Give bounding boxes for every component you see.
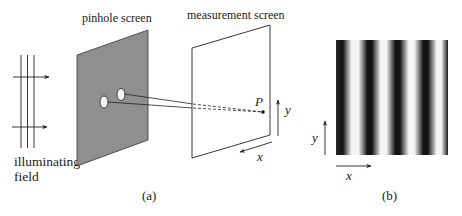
panel-a-caption: (a) [142, 188, 156, 203]
double-slit-diagram: illuminating field pinhole screen measur… [0, 0, 462, 216]
illuminating-field-wavefronts [21, 55, 34, 148]
interference-fringe-pattern [336, 40, 448, 155]
y-axis-label: y [283, 102, 291, 117]
x-axis-label: x [345, 168, 352, 183]
panel-b: y x (b) [310, 40, 448, 203]
point-p-label: P [254, 94, 263, 109]
pinhole-screen [77, 30, 148, 166]
panel-b-caption: (b) [382, 188, 397, 203]
y-axis-label: y [310, 130, 318, 145]
x-axis-label: x [256, 149, 263, 164]
measurement-screen [192, 25, 270, 158]
x-axis-arrow-icon [240, 142, 272, 152]
pinhole-2 [117, 89, 125, 101]
panel-a: illuminating field pinhole screen measur… [12, 8, 291, 203]
measurement-screen-label: measurement screen [187, 8, 285, 22]
point-p-marker [261, 110, 265, 114]
pinhole-1 [100, 96, 108, 108]
illuminating-field-label-line2: field [14, 169, 39, 184]
illuminating-field-label: illuminating [14, 154, 80, 169]
pinhole-screen-label: pinhole screen [82, 11, 152, 25]
